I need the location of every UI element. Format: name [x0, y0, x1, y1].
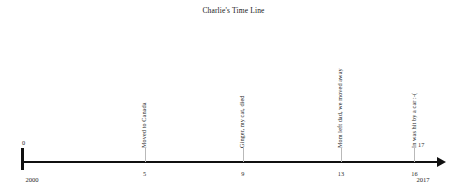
timeline-figure: Charlie's Time Line 0 17 2000 2017 59131… [0, 0, 467, 194]
tick-label: 13 [338, 170, 344, 177]
axis-end-year: 2017 [416, 176, 429, 183]
tick-label: 5 [143, 170, 146, 177]
tick-mark [341, 148, 342, 162]
axis-start-value: 0 [22, 139, 25, 146]
tick-label: 9 [241, 170, 244, 177]
event-label: Ginger, my cat, died [238, 96, 245, 148]
tick-mark [243, 148, 244, 162]
event-label: Moved to Canada [140, 103, 147, 149]
timeline-arrowhead-icon [437, 157, 446, 167]
tick-label: 16 [411, 170, 417, 177]
timeline-start-cap [21, 148, 23, 170]
tick-mark [145, 148, 146, 162]
axis-end-value: 17 [418, 141, 424, 148]
tick-mark [414, 148, 415, 162]
chart-title: Charlie's Time Line [0, 6, 467, 15]
event-label: In was hit by a car :-( [410, 93, 417, 148]
event-label: Mom left dad, we moved away [336, 68, 343, 148]
axis-start-year: 2000 [25, 176, 38, 183]
timeline-axis-line [22, 161, 439, 163]
